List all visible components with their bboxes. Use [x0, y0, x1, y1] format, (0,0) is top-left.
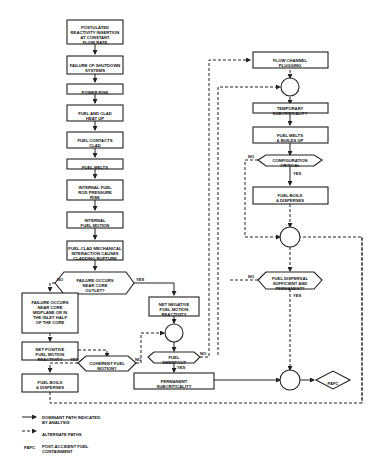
legend: DOMINANT PATH INDICATEDBY ANALYSIS ALTER… — [22, 415, 100, 454]
junction-circle-mid-right — [280, 227, 300, 247]
label-yes: YES — [293, 293, 302, 298]
node-net-negative-fuel-motion-reactivity: NET NEGATIVEFUEL MOTIONREACTIVITY — [149, 297, 199, 317]
node-fuel-contacts-clad: FUEL CONTACTSCLAD — [67, 132, 123, 148]
junction-circle-top-right — [281, 78, 299, 96]
terminal-pafc: PAFC — [316, 371, 350, 389]
node-fuel-melts-builds-up: FUEL MELTS& BUILDS UP — [253, 127, 328, 143]
decision-failure-near-core-outlet: FAILURE OCCURSNEAR COREOUTLET? NO YES — [55, 272, 145, 294]
node-failure-of-shutdown-systems: FAILURE OF SHUTDOWNSYSTEMS — [67, 56, 123, 74]
legend-pafc-abbr: PAFC — [24, 445, 35, 450]
node-postulated-reactivity-insertion: POSTULATEDREACTIVITY INSERTIONAT CONSTAN… — [67, 20, 123, 45]
svg-text:ALTERNATE PATHS: ALTERNATE PATHS — [42, 432, 82, 437]
svg-text:INTERNALFUEL MOTION: INTERNALFUEL MOTION — [81, 218, 110, 228]
svg-text:FUEL BOILS& DISPERSES: FUEL BOILS& DISPERSES — [36, 380, 64, 390]
label-yes: YES — [293, 171, 302, 176]
node-failure-near-core-midplane: FAILURE OCCURSNEAR COREMIDPLANE OR INTHE… — [22, 293, 78, 333]
svg-text:POWER RISE: POWER RISE — [82, 90, 109, 95]
svg-text:DOMINANT PATH INDICATEDBY ANAL: DOMINANT PATH INDICATEDBY ANALYSIS — [42, 415, 100, 425]
svg-text:FAILURE OCCURSNEAR COREMIDPLAN: FAILURE OCCURSNEAR COREMIDPLANE OR INTHE… — [31, 300, 68, 325]
decision-coherent-fuel-motion: COHERENT FUELMOTION? YES NO — [70, 356, 142, 371]
svg-text:TEMPORARYSUBCRITICALITY: TEMPORARYSUBCRITICALITY — [273, 106, 308, 116]
node-flow-channel-plugging: FLOW CHANNELPLUGGING — [253, 52, 328, 68]
label-no: NO — [248, 274, 255, 279]
label-yes: YES — [136, 277, 145, 282]
decision-fuel-dispersal-sufficient: FUEL DISPERSALSUFFICIENT ANDPERMANENT? N… — [248, 272, 322, 298]
junction-circle-bottom — [280, 370, 300, 390]
svg-text:NET NEGATIVEFUEL MOTIONREACTIV: NET NEGATIVEFUEL MOTIONREACTIVITY — [159, 302, 190, 317]
node-fuel-boils-disperses-right: FUEL BOILS& DISPERSES — [253, 187, 328, 204]
node-fuel-boils-disperses-left: FUEL BOILS& DISPERSES — [22, 374, 78, 392]
label-yes: YES — [177, 365, 186, 370]
svg-text:FUEL-CLAD MECHANICALINTERACTIO: FUEL-CLAD MECHANICALINTERACTION CAUSESCL… — [68, 246, 122, 261]
svg-text:FUEL MELTS: FUEL MELTS — [82, 165, 108, 170]
label-no: NO — [135, 357, 142, 362]
svg-text:FUEL MELTS& BUILDS UP: FUEL MELTS& BUILDS UP — [277, 133, 304, 143]
node-power-rise: POWER RISE — [67, 84, 123, 95]
node-fuel-and-clad-heat-up: FUEL AND CLADHEAT UP — [67, 105, 123, 121]
svg-text:FUEL BOILS& DISPERSES: FUEL BOILS& DISPERSES — [276, 193, 304, 203]
svg-text:PAFC: PAFC — [327, 381, 338, 386]
legend-dominant-path: DOMINANT PATH INDICATEDBY ANALYSIS — [22, 415, 100, 425]
junction-circle-center — [165, 324, 183, 342]
svg-text:PERMANENTSUBCRITICALITY: PERMANENTSUBCRITICALITY — [157, 379, 192, 389]
node-fuel-melts: FUEL MELTS — [67, 159, 123, 170]
node-internal-fuel-motion: INTERNALFUEL MOTION — [67, 212, 123, 228]
node-temporary-subcriticality: TEMPORARYSUBCRITICALITY — [253, 103, 328, 116]
svg-text:NET POSITIVEFUEL MOTIONREACTIV: NET POSITIVEFUEL MOTIONREACTIVITY — [36, 347, 65, 362]
node-fuel-clad-mechanical-interaction: FUEL-CLAD MECHANICALINTERACTION CAUSESCL… — [67, 241, 123, 261]
svg-text:FUEL DISPERSALSUFFICIENT ANDPE: FUEL DISPERSALSUFFICIENT ANDPERMANENT? — [272, 276, 308, 291]
decision-fuel-sweepout: FUELSWEEPOUT NO YES — [148, 351, 207, 370]
svg-text:POST-ACCIDENT FUELCONTAINMENT: POST-ACCIDENT FUELCONTAINMENT — [42, 444, 89, 454]
decision-configuration-critical: CONFIGURATIONCRITICAL NO YES — [248, 154, 322, 176]
flowchart: POSTULATEDREACTIVITY INSERTIONAT CONSTAN… — [0, 0, 383, 470]
legend-alternate-paths: ALTERNATE PATHS — [22, 431, 82, 437]
node-permanent-subcriticality: PERMANENTSUBCRITICALITY — [134, 373, 214, 389]
main-path-connectors — [95, 44, 314, 380]
label-no: NO — [57, 277, 64, 282]
node-internal-fuel-rod-pressure-rise: INTERNAL FUELROD PRESSURERISE — [67, 180, 123, 200]
label-no: NO — [248, 154, 255, 159]
legend-pafc-definition: PAFC POST-ACCIDENT FUELCONTAINMENT — [24, 444, 89, 454]
label-yes: YES — [70, 357, 79, 362]
label-no: NO — [200, 351, 207, 356]
